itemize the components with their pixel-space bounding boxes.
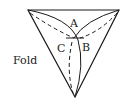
folded-triangle-diagram: A B C Fold — [0, 0, 127, 107]
label-c: C — [57, 42, 65, 55]
dashed-down — [69, 42, 73, 93]
label-a: A — [69, 17, 79, 30]
label-b: B — [82, 41, 90, 54]
label-fold: Fold — [13, 54, 37, 67]
